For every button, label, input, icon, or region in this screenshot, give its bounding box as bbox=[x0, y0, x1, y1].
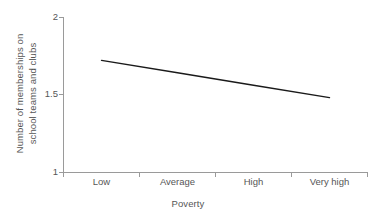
x-tick-label-average: Average bbox=[139, 176, 216, 187]
x-tick-label-high: High bbox=[215, 176, 292, 187]
x-tick-label-very-high: Very high bbox=[291, 176, 368, 187]
line-chart: Number of memberships on school teams an… bbox=[0, 0, 376, 219]
data-series-line bbox=[102, 60, 330, 97]
x-axis-title: Poverty bbox=[0, 198, 376, 209]
x-tick-label-low: Low bbox=[63, 176, 140, 187]
